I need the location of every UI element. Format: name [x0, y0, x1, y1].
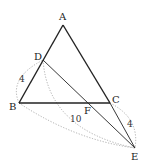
arc-be — [19, 103, 135, 148]
side-ab — [19, 25, 63, 103]
label-f: F — [84, 105, 91, 116]
segment-de — [43, 60, 135, 148]
side-ac — [63, 25, 110, 103]
label-c: C — [112, 94, 120, 105]
geometry-diagram: A D B C F E 4 10 4 — [0, 0, 147, 165]
label-b: B — [9, 101, 16, 112]
measure-be: 10 — [70, 114, 82, 124]
measure-ce: 4 — [127, 119, 133, 129]
label-e: E — [131, 151, 138, 162]
measure-bd: 4 — [19, 74, 25, 84]
label-a: A — [58, 11, 67, 22]
label-d: D — [34, 51, 42, 62]
